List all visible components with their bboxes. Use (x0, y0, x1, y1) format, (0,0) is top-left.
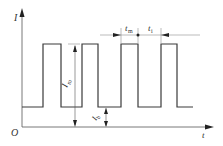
waveform-diagram: I t O I m I b t m t i (0, 0, 223, 146)
origin-label: O (11, 127, 18, 138)
base-current-label: I b (89, 112, 101, 123)
svg-text:i: i (151, 28, 153, 34)
svg-text:m: m (128, 28, 133, 34)
y-axis-label: I (13, 12, 18, 23)
x-axis-label: t (202, 130, 205, 140)
pulse-waveform (22, 44, 193, 107)
pulse-time-label: t m (125, 23, 133, 34)
y-axis-arrow-icon (20, 8, 25, 17)
x-axis-arrow-icon (205, 125, 214, 130)
svg-text:m: m (66, 79, 73, 86)
base-current-dimension (104, 108, 108, 127)
interval-time-label: t i (148, 23, 153, 34)
axes (20, 8, 215, 130)
